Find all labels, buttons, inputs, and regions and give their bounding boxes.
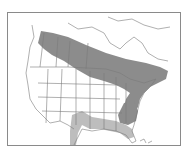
map-frame — [7, 12, 181, 146]
north-america-map — [8, 13, 181, 146]
